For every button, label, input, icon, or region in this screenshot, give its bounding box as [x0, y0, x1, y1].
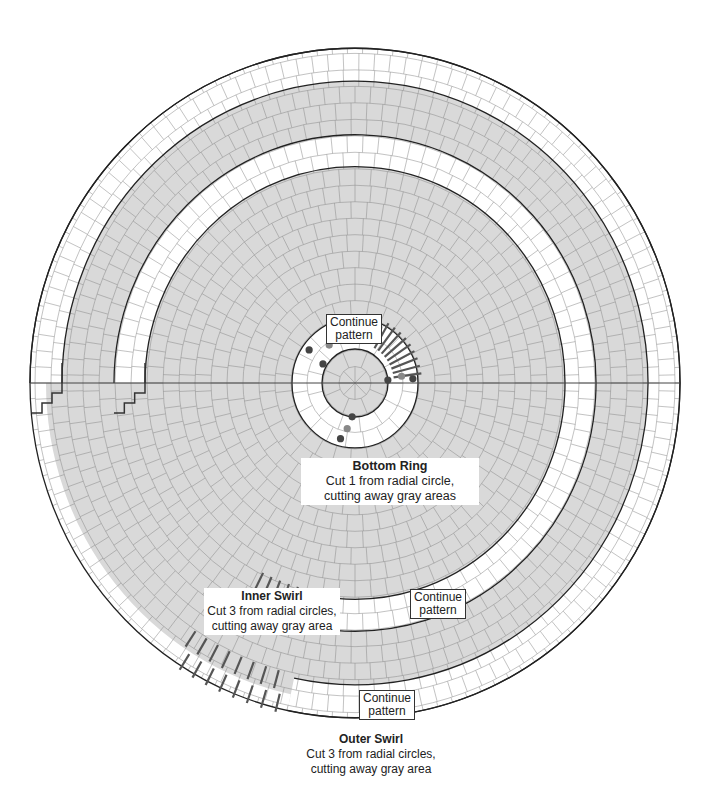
outer-swirl-title: Outer Swirl [296, 732, 446, 747]
inner-swirl-line2: cutting away gray area [207, 619, 337, 634]
callout-line1: Continue [330, 315, 378, 329]
continue-pattern-callout-center: Continue pattern [326, 314, 382, 344]
callout-line2: pattern [368, 704, 405, 718]
continue-pattern-callout-outer: Continue pattern [359, 690, 415, 720]
inner-swirl-title: Inner Swirl [207, 589, 337, 604]
inner-swirl-line1: Cut 3 from radial circles, [207, 604, 337, 619]
outer-swirl-line2: cutting away gray area [296, 762, 446, 777]
bottom-ring-title: Bottom Ring [304, 459, 476, 474]
callout-line1: Continue [363, 691, 411, 705]
outer-swirl-label: Outer Swirl Cut 3 from radial circles, c… [293, 731, 449, 778]
radial-pattern-diagram [0, 0, 720, 803]
bottom-ring-line2: cutting away gray areas [304, 489, 476, 504]
callout-line1: Continue [414, 590, 462, 604]
callout-line2: pattern [335, 328, 372, 342]
outer-swirl-line1: Cut 3 from radial circles, [296, 747, 446, 762]
bottom-ring-line1: Cut 1 from radial circle, [304, 474, 476, 489]
continue-pattern-callout-inner: Continue pattern [410, 589, 466, 619]
inner-swirl-label: Inner Swirl Cut 3 from radial circles, c… [204, 588, 340, 635]
bottom-ring-label: Bottom Ring Cut 1 from radial circle, cu… [301, 458, 479, 505]
callout-line2: pattern [419, 603, 456, 617]
